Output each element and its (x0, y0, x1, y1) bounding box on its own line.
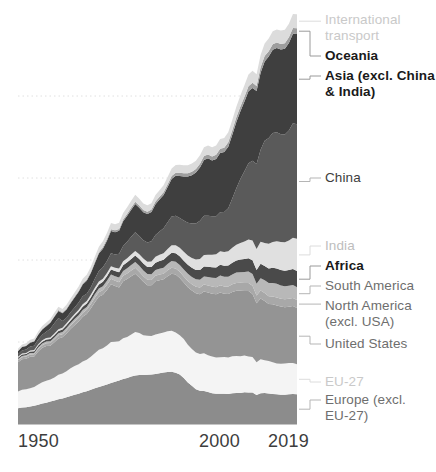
series-label-international-transport[interactable]: International transport (325, 12, 401, 43)
series-label-africa[interactable]: Africa (325, 258, 364, 274)
stacked-area-chart: International transportOceaniaAsia (excl… (0, 0, 436, 472)
x-axis-tick-2019: 2019 (268, 431, 309, 452)
series-label-eu-27[interactable]: EU-27 (325, 374, 364, 390)
series-label-asia-excl-china-india[interactable]: Asia (excl. China & India) (325, 68, 435, 99)
series-label-united-states[interactable]: United States (325, 336, 407, 352)
series-label-south-america[interactable]: South America (325, 278, 414, 294)
x-axis-tick-2000: 2000 (199, 431, 240, 452)
leader-line-china (299, 178, 321, 182)
series-label-india[interactable]: India (325, 238, 355, 254)
leader-line-india (299, 246, 321, 255)
leader-line-asia-excl-china-india (299, 76, 321, 79)
leader-line-eu-27 (299, 379, 321, 382)
series-label-europe-excl-eu-27[interactable]: Europe (excl. EU-27) (325, 392, 406, 423)
series-label-oceania[interactable]: Oceania (325, 48, 378, 64)
x-axis-tick-1950: 1950 (18, 431, 59, 452)
series-label-china[interactable]: China (325, 170, 361, 186)
leader-line-africa (299, 266, 321, 279)
series-label-north-america-excl-usa[interactable]: North America (excl. USA) (325, 298, 412, 329)
leader-line-united-states (299, 336, 321, 344)
leader-line-oceania (299, 31, 321, 56)
leader-line-europe-excl-eu-27 (299, 400, 321, 409)
leader-line-south-america (299, 286, 321, 294)
